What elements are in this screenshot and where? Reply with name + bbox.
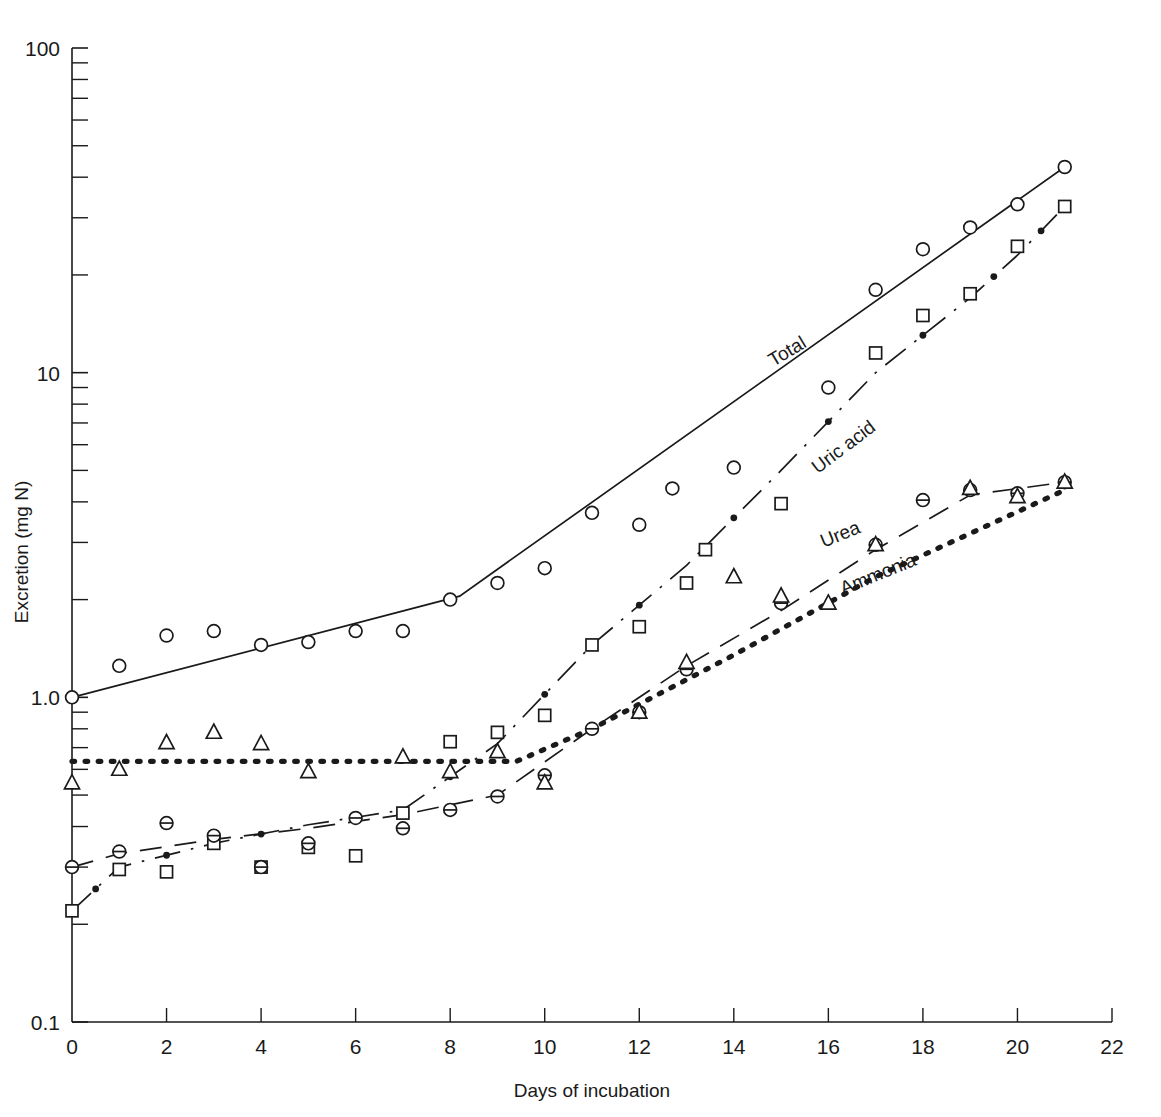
series-dot-uric-acid: [990, 273, 997, 280]
excretion-line-chart: 0.11.010100 0246810121416182022 TotalUri…: [0, 0, 1161, 1117]
data-point-uric-acid: [681, 577, 693, 589]
y-tick-label: 100: [25, 37, 60, 60]
x-tick-label: 12: [628, 1035, 651, 1058]
data-point-uric-acid: [1011, 240, 1023, 252]
data-point-uric-acid: [444, 736, 456, 748]
data-point-total: [538, 562, 551, 575]
data-point-uric-acid: [1059, 200, 1071, 212]
data-point-total: [1011, 198, 1024, 211]
data-point-uric-acid: [66, 905, 78, 917]
data-point-uric-acid: [161, 866, 173, 878]
data-point-total: [666, 482, 679, 495]
data-point-uric-acid: [917, 309, 929, 321]
data-point-total: [349, 625, 362, 638]
data-point-total: [66, 691, 79, 704]
data-point-total: [917, 243, 930, 256]
series-dot-uric-acid: [730, 514, 737, 521]
data-point-total: [822, 381, 835, 394]
data-point-uric-acid: [350, 850, 362, 862]
chart-background: [0, 0, 1161, 1117]
data-point-urea: [444, 804, 457, 817]
x-tick-label: 20: [1006, 1035, 1029, 1058]
data-point-urea: [397, 822, 410, 835]
data-point-uric-acid: [699, 544, 711, 556]
data-point-total: [302, 636, 315, 649]
y-axis-title: Excretion (mg N): [11, 481, 32, 624]
y-tick-label: 10: [37, 362, 60, 385]
x-tick-label: 8: [444, 1035, 456, 1058]
series-dot-uric-acid: [258, 831, 265, 838]
data-point-total: [491, 577, 504, 590]
x-tick-label: 22: [1100, 1035, 1123, 1058]
x-tick-label: 4: [255, 1035, 267, 1058]
x-tick-label: 6: [350, 1035, 362, 1058]
data-point-total: [869, 283, 882, 296]
x-tick-label: 10: [533, 1035, 556, 1058]
data-point-uric-acid: [586, 639, 598, 651]
series-dot-uric-acid: [636, 602, 643, 609]
x-axis-title: Days of incubation: [514, 1080, 670, 1101]
data-point-uric-acid: [870, 347, 882, 359]
data-point-uric-acid: [633, 621, 645, 633]
data-point-urea: [255, 861, 268, 874]
data-point-urea: [302, 837, 315, 850]
x-tick-label: 0: [66, 1035, 78, 1058]
x-tick-label: 16: [817, 1035, 840, 1058]
data-point-total: [444, 593, 457, 606]
data-point-total: [633, 518, 646, 531]
data-point-urea: [113, 845, 126, 858]
data-point-urea: [917, 494, 930, 507]
data-point-urea: [207, 829, 220, 842]
data-point-uric-acid: [775, 498, 787, 510]
data-point-uric-acid: [397, 807, 409, 819]
data-point-total: [727, 461, 740, 474]
data-point-total: [397, 625, 410, 638]
x-tick-label: 2: [161, 1035, 173, 1058]
series-dot-uric-acid: [92, 886, 99, 893]
series-dot-uric-acid: [1038, 227, 1045, 234]
series-dot-uric-acid: [163, 852, 170, 859]
y-tick-label: 0.1: [31, 1011, 60, 1034]
figure-container: 0.11.010100 0246810121416182022 TotalUri…: [0, 0, 1161, 1117]
x-tick-label: 18: [911, 1035, 934, 1058]
y-tick-label: 1.0: [31, 686, 60, 709]
data-point-urea: [491, 790, 504, 803]
data-point-total: [160, 629, 173, 642]
data-point-total: [1058, 161, 1071, 174]
series-dot-uric-acid: [541, 691, 548, 698]
data-point-urea: [349, 812, 362, 825]
data-point-total: [586, 506, 599, 519]
data-point-uric-acid: [964, 288, 976, 300]
series-dot-uric-acid: [920, 332, 927, 339]
data-point-uric-acid: [491, 726, 503, 738]
data-point-urea: [586, 722, 599, 735]
data-point-total: [113, 659, 126, 672]
data-point-urea: [160, 817, 173, 830]
series-dot-uric-acid: [825, 418, 832, 425]
data-point-uric-acid: [539, 709, 551, 721]
data-point-total: [255, 639, 268, 652]
data-point-uric-acid: [113, 863, 125, 875]
data-point-urea: [66, 861, 79, 874]
data-point-total: [964, 221, 977, 234]
data-point-total: [207, 625, 220, 638]
x-tick-label: 14: [722, 1035, 746, 1058]
